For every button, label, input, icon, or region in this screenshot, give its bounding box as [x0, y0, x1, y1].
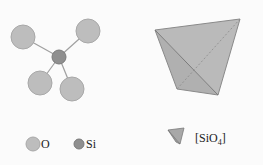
legend-tetrahedron-icon: [168, 128, 184, 144]
tetrahedron: [155, 19, 240, 95]
oxygen-atom-lower-right: [60, 77, 84, 101]
oxygen-atom-upper-left: [11, 25, 35, 49]
oxygen-atom-upper-right: [76, 19, 100, 43]
oxygen-atom-lower-left: [28, 71, 52, 95]
tetra-label-text: [SiO: [195, 131, 218, 145]
legend-tetrahedron-label: [SiO4]: [195, 132, 226, 149]
legend-oxygen-label: O: [41, 138, 50, 150]
legend-silicon-label: Si: [86, 138, 96, 150]
legend-silicon-icon: [74, 139, 84, 149]
legend-oxygen-icon: [26, 137, 40, 151]
diagram-canvas: O Si [SiO4]: [0, 0, 263, 165]
tetra-label-close: ]: [222, 131, 226, 145]
silicon-atom: [52, 50, 66, 64]
